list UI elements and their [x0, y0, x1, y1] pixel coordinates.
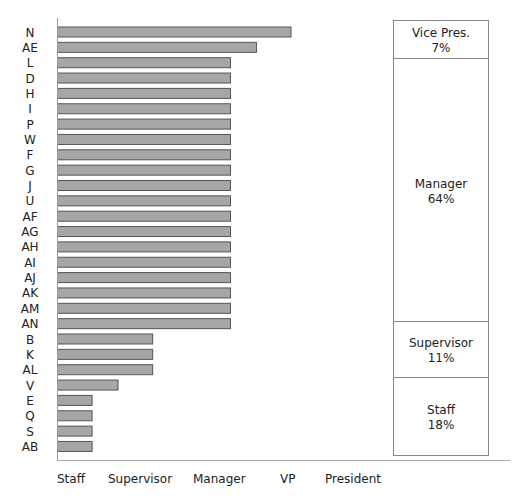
panel-segment-label: Manager: [415, 177, 468, 191]
category-label-AK: AK: [22, 286, 39, 300]
bar-AJ: [58, 273, 231, 283]
x-tick-label-staff: Staff: [57, 472, 86, 486]
bar-AG: [58, 227, 231, 237]
bar-AF: [58, 211, 231, 221]
bar-AN: [58, 319, 231, 329]
category-label-D: D: [25, 72, 34, 86]
category-label-AI: AI: [24, 256, 36, 270]
bar-K: [58, 349, 153, 359]
category-label-W: W: [24, 133, 36, 147]
bar-AI: [58, 257, 231, 267]
category-label-Q: Q: [25, 409, 34, 423]
bar-N: [58, 27, 292, 37]
x-tick-label-supervisor: Supervisor: [108, 472, 172, 486]
category-label-AE: AE: [22, 41, 38, 55]
level-share-panel: Vice Pres.7%Manager64%Supervisor11%Staff…: [394, 21, 489, 456]
panel-segment-percent: 64%: [428, 192, 455, 206]
category-label-B: B: [26, 333, 34, 347]
bar-AM: [58, 303, 231, 313]
category-label-AL: AL: [23, 363, 38, 377]
panel-segment-percent: 18%: [428, 418, 455, 432]
category-label-AN: AN: [21, 317, 38, 331]
panel-segment-percent: 11%: [428, 351, 455, 365]
bars-group: [58, 27, 292, 451]
bar-H: [58, 88, 231, 98]
category-label-J: J: [27, 179, 32, 193]
category-label-E: E: [26, 394, 34, 408]
category-label-N: N: [26, 26, 35, 40]
category-label-AB: AB: [22, 440, 38, 454]
category-label-U: U: [26, 194, 35, 208]
bar-P: [58, 119, 231, 129]
category-label-G: G: [25, 164, 34, 178]
category-label-K: K: [26, 348, 35, 362]
category-label-AJ: AJ: [24, 271, 36, 285]
panel-segment-label: Vice Pres.: [412, 26, 470, 40]
bar-G: [58, 165, 231, 175]
bar-J: [58, 181, 231, 191]
bar-AE: [58, 42, 257, 52]
category-label-AG: AG: [21, 225, 38, 239]
bar-F: [58, 150, 231, 160]
category-label-P: P: [26, 118, 33, 132]
category-label-F: F: [27, 148, 34, 162]
bar-I: [58, 104, 231, 114]
bar-AK: [58, 288, 231, 298]
x-tick-label-president: President: [325, 472, 381, 486]
x-tick-label-manager: Manager: [193, 472, 246, 486]
category-label-AF: AF: [22, 210, 37, 224]
bar-V: [58, 380, 119, 390]
x-tick-label-vp: VP: [280, 472, 295, 486]
org-level-chart: NAELDHIPWFGJUAFAGAHAIAJAKAMANBKALVEQSAB …: [0, 0, 528, 504]
bar-E: [58, 395, 93, 405]
bar-AL: [58, 365, 153, 375]
bar-W: [58, 134, 231, 144]
panel-segment-percent: 7%: [431, 41, 450, 55]
bar-AH: [58, 242, 231, 252]
x-tick-labels: StaffSupervisorManagerVPPresident: [57, 472, 381, 486]
panel-segment-label: Staff: [427, 403, 456, 417]
panel-segment-label: Supervisor: [409, 336, 473, 350]
bar-Q: [58, 411, 93, 421]
bar-D: [58, 73, 231, 83]
category-label-AM: AM: [21, 302, 40, 316]
category-label-S: S: [26, 425, 34, 439]
category-labels: NAELDHIPWFGJUAFAGAHAIAJAKAMANBKALVEQSAB: [21, 26, 40, 454]
category-label-AH: AH: [21, 240, 38, 254]
category-label-L: L: [27, 56, 34, 70]
category-label-H: H: [25, 87, 34, 101]
category-label-I: I: [28, 102, 32, 116]
bar-L: [58, 58, 231, 68]
category-label-V: V: [26, 379, 35, 393]
bar-B: [58, 334, 153, 344]
bar-S: [58, 426, 93, 436]
bar-AB: [58, 441, 93, 451]
bar-U: [58, 196, 231, 206]
